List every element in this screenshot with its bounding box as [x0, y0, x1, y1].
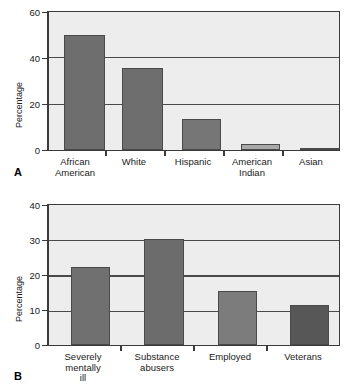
- y-tick-label-b-10: 10: [21, 305, 40, 316]
- x-axis-label-severely-mentally-ill: Severely mentally ill: [48, 352, 118, 384]
- y-tick-label-a-0: 0: [24, 145, 40, 156]
- x-axis-label-african-american: African American: [46, 157, 104, 178]
- chart-panel-a: Percentage 0 20 40 60 African American W…: [0, 0, 352, 194]
- x-axis-label-line: American: [223, 157, 281, 168]
- x-axis-label-hispanic: Hispanic: [164, 157, 222, 168]
- x-axis-label-american-indian: American Indian: [223, 157, 281, 178]
- x-axis-label-asian: Asian: [282, 157, 340, 168]
- x-axis-label-white: White: [105, 157, 163, 168]
- x-axis-label-line: African: [46, 157, 104, 168]
- x-tick-b-1: [120, 346, 122, 351]
- x-axis-label-line: Veterans: [267, 352, 339, 363]
- bar-hispanic: [182, 119, 221, 151]
- x-axis-label-line: Substance: [121, 352, 193, 363]
- panel-letter-b: B: [14, 370, 22, 382]
- y-tick-label-b-20: 20: [21, 270, 40, 281]
- x-tick-a-4: [282, 151, 284, 156]
- y-tick-label-a-20: 20: [21, 99, 40, 110]
- x-axis-label-line: ill: [48, 373, 118, 384]
- gridline-b-30: [49, 240, 339, 242]
- bar-veterans: [290, 305, 329, 345]
- x-axis-label-veterans: Veterans: [267, 352, 339, 363]
- y-tick-label-b-30: 30: [21, 235, 40, 246]
- x-axis-label-line: abusers: [121, 363, 193, 374]
- x-tick-b-3: [266, 346, 268, 351]
- x-tick-b-2: [193, 346, 195, 351]
- x-axis-label-line: Indian: [223, 168, 281, 179]
- bar-substance-abusers: [144, 239, 184, 346]
- panel-letter-a: A: [14, 166, 22, 178]
- bar-severely-mentally-ill: [71, 267, 110, 345]
- chart-panel-b: Percentage 0 10 20 30 40 Severely mental…: [0, 194, 352, 388]
- x-tick-a-3: [223, 151, 225, 156]
- x-axis-label-line: Hispanic: [164, 157, 222, 168]
- bar-employed: [218, 291, 257, 345]
- x-axis-label-line: Asian: [282, 157, 340, 168]
- y-tick-label-a-60: 60: [21, 7, 40, 18]
- x-axis-label-line: Severely: [48, 352, 118, 363]
- y-tick-label-a-40: 40: [21, 53, 40, 64]
- x-tick-a-1: [105, 151, 107, 156]
- bar-american-indian: [241, 144, 280, 150]
- y-tick-label-b-0: 0: [24, 340, 40, 351]
- plot-area-b: [47, 204, 340, 346]
- x-tick-a-2: [164, 151, 166, 156]
- y-tick-label-b-40: 40: [21, 200, 40, 211]
- x-axis-label-employed: Employed: [194, 352, 266, 363]
- x-axis-label-line: Employed: [194, 352, 266, 363]
- x-axis-label-substance-abusers: Substance abusers: [121, 352, 193, 373]
- x-axis-label-line: White: [105, 157, 163, 168]
- bar-white: [122, 68, 163, 150]
- bar-african-american: [64, 35, 105, 151]
- bar-asian: [300, 148, 339, 150]
- plot-area-a: [47, 11, 340, 151]
- x-axis-label-line: American: [46, 168, 104, 179]
